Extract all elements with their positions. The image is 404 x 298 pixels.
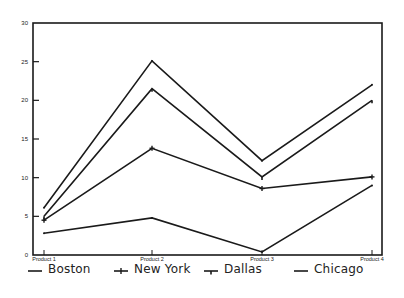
- y-axis: 051015202530: [21, 20, 39, 258]
- x-axis: Product 1Product 2Product 3Product 4: [32, 250, 384, 262]
- point-marker-icon: [43, 207, 45, 209]
- legend-swatch-icon: [204, 263, 218, 275]
- point-marker-icon: [371, 184, 373, 186]
- series-new-york: [42, 146, 375, 223]
- point-marker-icon: [261, 251, 263, 253]
- legend-label: New York: [134, 262, 191, 276]
- y-tick-label: 5: [25, 213, 29, 219]
- y-tick-label: 0: [25, 252, 29, 258]
- y-tick-label: 20: [21, 97, 28, 103]
- line-chart: 051015202530 Product 1Product 2Product 3…: [0, 0, 404, 262]
- legend-swatch-icon: [294, 263, 308, 275]
- legend-item-new-york: New York: [114, 262, 191, 276]
- series-chicago: [43, 184, 373, 253]
- legend-label: Chicago: [314, 262, 364, 276]
- y-tick-label: 15: [21, 136, 28, 142]
- legend-item-boston: Boston: [28, 262, 91, 276]
- legend-swatch-icon: [114, 263, 128, 275]
- chart-legend: BostonNew YorkDallasChicago: [0, 262, 404, 286]
- legend-label: Dallas: [224, 262, 262, 276]
- legend-item-dallas: Dallas: [204, 262, 262, 276]
- series-dallas: [44, 89, 372, 220]
- legend-swatch-icon: [28, 263, 42, 275]
- y-tick-label: 10: [21, 175, 28, 181]
- legend-label: Boston: [48, 262, 91, 276]
- series-line: [44, 185, 372, 252]
- legend-item-chicago: Chicago: [294, 262, 364, 276]
- series-layer: [42, 60, 375, 253]
- point-marker-icon: [371, 84, 373, 86]
- plot-frame: [33, 23, 382, 255]
- point-marker-icon: [43, 232, 45, 234]
- y-tick-label: 25: [21, 59, 28, 65]
- point-marker-icon: [151, 60, 153, 62]
- point-marker-icon: [151, 217, 153, 219]
- y-tick-label: 30: [21, 20, 28, 26]
- series-line: [44, 89, 372, 217]
- plot-border: [33, 23, 382, 255]
- point-marker-icon: [261, 160, 263, 162]
